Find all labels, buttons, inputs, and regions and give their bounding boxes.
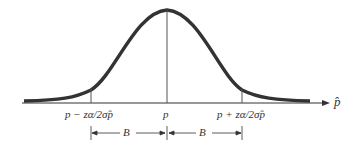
sampling-distribution-diagram: p̂ p − zα/2σp̂ p p + zα/2σp̂ B B (0, 0, 353, 149)
interval-arrows (91, 126, 242, 140)
center-label: p (163, 108, 169, 120)
right-interval-label: B (199, 126, 206, 138)
axis-arrow-icon (322, 100, 330, 106)
left-interval-label: B (123, 126, 130, 138)
axis-label: p̂ (334, 94, 341, 110)
normal-curve-graphic (0, 0, 353, 149)
right-bound-label: p + zα/2σp̂ (217, 108, 265, 120)
left-bound-label: p − zα/2σp̂ (65, 108, 113, 120)
